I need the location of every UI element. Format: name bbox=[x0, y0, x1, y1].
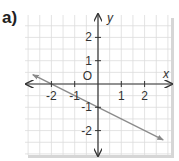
origin-label: O bbox=[83, 69, 92, 83]
x-tick-label: 2 bbox=[141, 89, 148, 103]
x-tick-label: -1 bbox=[69, 89, 80, 103]
chart-canvas: -2-11221-1-2Oxy bbox=[0, 0, 179, 161]
y-tick-label: 1 bbox=[85, 54, 92, 68]
y-tick-label: 2 bbox=[85, 30, 92, 44]
x-tick-label: 1 bbox=[118, 89, 125, 103]
y-tick-label: -2 bbox=[81, 124, 92, 138]
y-tick-label: -1 bbox=[81, 100, 92, 114]
y-axis-label: y bbox=[106, 11, 114, 25]
x-tick-label: -2 bbox=[46, 89, 57, 103]
x-axis-label: x bbox=[162, 67, 170, 81]
